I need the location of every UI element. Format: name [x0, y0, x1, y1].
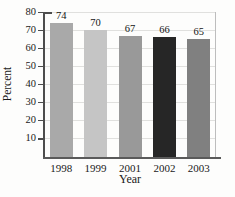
x-axis-line: [43, 157, 221, 159]
y-tick: [38, 102, 44, 103]
y-tick: [38, 120, 44, 121]
y-tick: [38, 48, 44, 49]
bar-1999: [84, 30, 107, 157]
x-axis-title: Year: [44, 172, 216, 187]
plot-right-edge: [215, 12, 216, 157]
bar-value-label: 67: [115, 23, 145, 34]
y-tick-label: 30: [10, 96, 36, 107]
y-tick-label: 70: [10, 24, 36, 35]
bar-value-label: 70: [81, 17, 111, 28]
y-tick-label: 80: [10, 6, 36, 17]
y-tick-label: 60: [10, 42, 36, 53]
bar-1998: [50, 23, 73, 157]
y-tick: [38, 12, 44, 13]
bar-value-label: 66: [149, 24, 179, 35]
y-tick-label: 40: [10, 78, 36, 89]
y-tick: [38, 84, 44, 85]
bar-2003: [187, 39, 210, 157]
plot-area: 1020304050607080741998701999672001662002…: [44, 12, 216, 157]
y-tick: [38, 138, 44, 139]
y-tick: [38, 30, 44, 31]
y-tick-label: 20: [10, 114, 36, 125]
y-tick-label: 10: [10, 132, 36, 143]
y-tick-label: 50: [10, 60, 36, 71]
bar-value-label: 74: [46, 10, 76, 21]
bar-chart: Percent 10203040506070807419987019996720…: [0, 0, 235, 197]
bar-2002: [153, 37, 176, 157]
y-tick: [38, 66, 44, 67]
bar-value-label: 65: [184, 26, 214, 37]
bar-2001: [119, 36, 142, 157]
